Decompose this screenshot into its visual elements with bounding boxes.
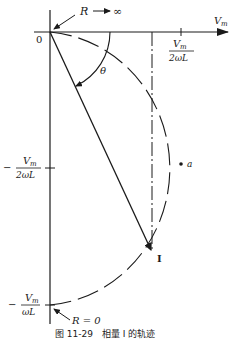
svg-text:m: m xyxy=(221,20,228,28)
svg-text:−: − xyxy=(8,299,16,310)
origin-label: 0 xyxy=(36,34,42,45)
svg-text:−: − xyxy=(3,162,11,173)
svg-text:ωL: ωL xyxy=(22,307,35,317)
point-a-marker xyxy=(179,162,183,166)
theta-arc xyxy=(76,32,110,86)
phasor-i-label: I xyxy=(157,253,162,264)
point-a-label: a xyxy=(187,159,192,169)
x-axis-label: V m xyxy=(214,15,228,28)
svg-text:m: m xyxy=(30,160,37,168)
svg-text:2ωL: 2ωL xyxy=(168,53,188,63)
svg-text:R: R xyxy=(79,5,88,18)
phasor-locus-diagram: R ∞ V m 0 V m 2ωL θ − V m 2ωL a xyxy=(0,0,233,339)
y-tick-half-label: − V m 2ωL xyxy=(3,155,41,180)
figure-caption: 图 11-29 相量 I 的轨迹 xyxy=(55,328,155,339)
svg-text:∞: ∞ xyxy=(113,5,122,18)
svg-text:m: m xyxy=(180,43,187,51)
r-zero-pointer xyxy=(54,309,70,320)
r-infinity-label: R ∞ xyxy=(79,5,122,18)
r-zero-label: R = 0 xyxy=(71,315,101,326)
y-tick-full-label: − V m ωL xyxy=(8,292,40,317)
x-tick-label: V m 2ωL xyxy=(168,38,194,63)
svg-text:m: m xyxy=(32,297,39,305)
svg-text:2ωL: 2ωL xyxy=(15,170,35,180)
r-infinity-pointer xyxy=(54,15,75,29)
theta-label: θ xyxy=(100,65,106,76)
